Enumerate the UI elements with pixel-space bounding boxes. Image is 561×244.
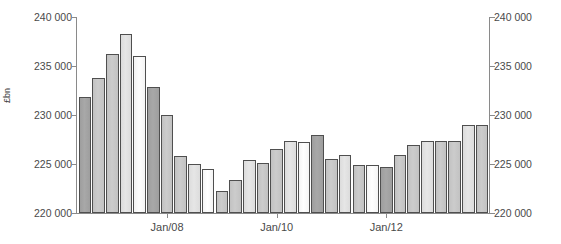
x-axis-baseline [76, 213, 490, 214]
bar [366, 165, 379, 213]
bar [188, 164, 201, 213]
y-tick-mark-left-240000 [72, 17, 77, 18]
bar [229, 180, 242, 213]
y-tick-label-right-225000: 225 000 [494, 159, 532, 169]
y-tick-mark-right-230000 [490, 115, 495, 116]
y-tick-mark-left-220000 [72, 213, 77, 214]
bar [284, 141, 297, 213]
y-tick-label-right-235000: 235 000 [494, 61, 532, 71]
y-axis-left-ticks: 240 000 235 000 230 000 225 000 220 000 [10, 0, 72, 244]
x-tick-label: Jan/12 [370, 221, 403, 233]
x-tick-mark [167, 213, 168, 218]
bar [325, 159, 338, 213]
bar [311, 135, 324, 213]
bar [270, 149, 283, 213]
bar [174, 156, 187, 213]
bar [147, 87, 160, 213]
bar [339, 155, 352, 213]
bar [216, 191, 229, 213]
bar [120, 34, 133, 213]
bar [448, 141, 461, 213]
y-tick-label-left-230000: 230 000 [34, 110, 72, 120]
y-tick-mark-left-230000 [72, 115, 77, 116]
bar-chart: £bn 240 000 235 000 230 000 225 000 220 … [0, 0, 561, 244]
bar [161, 115, 174, 213]
bar [92, 78, 105, 213]
bar [462, 125, 475, 213]
x-tick-mark [277, 213, 278, 218]
bar [243, 160, 256, 213]
y-tick-mark-left-225000 [72, 164, 77, 165]
y-tick-mark-left-235000 [72, 66, 77, 67]
y-tick-label-left-225000: 225 000 [34, 159, 72, 169]
y-tick-label-right-240000: 240 000 [494, 12, 532, 22]
bar [353, 165, 366, 213]
y-tick-label-left-220000: 220 000 [34, 208, 72, 218]
y-tick-mark-right-225000 [490, 164, 495, 165]
bar [257, 163, 270, 213]
bar [421, 141, 434, 213]
x-tick-label: Jan/08 [151, 221, 184, 233]
bar [133, 56, 146, 213]
y-tick-label-right-220000: 220 000 [494, 208, 532, 218]
plot-area [78, 17, 489, 213]
bar [202, 169, 215, 213]
y-tick-label-left-235000: 235 000 [34, 61, 72, 71]
x-tick-mark [386, 213, 387, 218]
bar [106, 54, 119, 213]
y-tick-mark-right-235000 [490, 66, 495, 67]
bar [298, 142, 311, 213]
y-tick-mark-right-240000 [490, 17, 495, 18]
bar [435, 141, 448, 213]
bar [79, 97, 92, 213]
bar [394, 155, 407, 213]
bar [476, 125, 489, 213]
y-tick-label-right-230000: 230 000 [494, 110, 532, 120]
x-tick-label: Jan/10 [260, 221, 293, 233]
bar [407, 145, 420, 213]
y-tick-label-left-240000: 240 000 [34, 12, 72, 22]
bar [380, 167, 393, 213]
y-axis-right-ticks: 240 000 235 000 230 000 225 000 220 000 [494, 0, 556, 244]
y-tick-mark-right-220000 [490, 213, 495, 214]
